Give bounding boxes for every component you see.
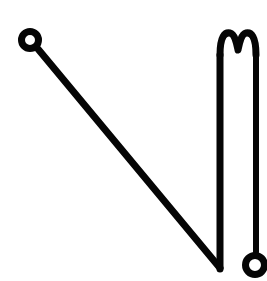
line-drawing xyxy=(0,0,267,281)
drawing-canvas xyxy=(0,0,267,281)
